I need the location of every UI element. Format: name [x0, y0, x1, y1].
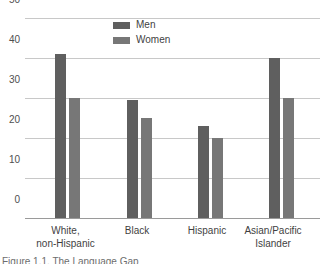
bar-women-white-non-hispanic [69, 98, 80, 218]
bar-women-hispanic [212, 138, 223, 218]
y-tick-50: 50 [0, 0, 20, 5]
legend-label-women: Women [136, 35, 170, 45]
bar-men-hispanic [198, 126, 209, 218]
bar-men-white-non-hispanic [55, 54, 66, 218]
bar-men-black [127, 100, 138, 218]
bar-chart: 50 40 30 20 10 0 [0, 0, 322, 264]
legend-item-women: Women [113, 34, 170, 46]
y-tick-40: 40 [0, 35, 20, 45]
y-tick-0: 0 [0, 195, 20, 205]
legend-label-men: Men [136, 20, 155, 30]
legend-swatch-icon-men [113, 22, 130, 29]
y-tick-20: 20 [0, 115, 20, 125]
gridline-0-baseline [25, 218, 320, 219]
y-tick-10: 10 [0, 155, 20, 165]
bar-women-asian-pacific-islander [283, 98, 294, 218]
legend: Men Women [113, 19, 170, 46]
plot-area [25, 18, 320, 218]
bar-men-asian-pacific-islander [269, 58, 280, 218]
y-tick-30: 30 [0, 75, 20, 85]
legend-swatch-icon-women [113, 37, 130, 44]
x-label-asian-pacific-islander: Asian/Pacific Islander [226, 224, 320, 250]
gridline-50 [25, 18, 320, 19]
bar-women-black [141, 118, 152, 218]
figure-caption: Figure 1.1. The Language Gap [2, 256, 139, 264]
legend-item-men: Men [113, 19, 170, 31]
